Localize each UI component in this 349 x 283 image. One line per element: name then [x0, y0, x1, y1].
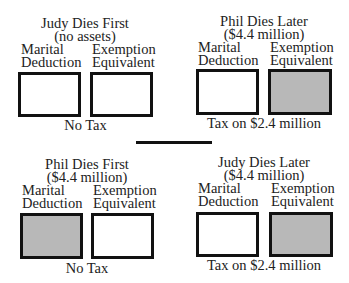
marital-deduction-box — [196, 69, 259, 115]
marital-label-line2: Deduction — [21, 56, 81, 69]
tax-result: No Tax — [18, 119, 153, 132]
exemption-label-line2: Equivalent — [93, 197, 156, 210]
tax-result: Tax on $2.4 million — [190, 117, 338, 130]
marital-label-line2: Deduction — [22, 197, 82, 210]
marital-deduction-box — [18, 72, 81, 117]
marital-label-line2: Deduction — [198, 54, 258, 67]
marital-label-line2: Deduction — [198, 195, 258, 208]
exemption-equivalent-box-shaded — [268, 69, 332, 115]
exemption-label-line2: Equivalent — [270, 54, 333, 67]
marital-deduction-box — [196, 212, 259, 257]
tax-result: Tax on $2.4 million — [190, 259, 338, 272]
exemption-equivalent-box — [91, 213, 154, 259]
marital-deduction-box-shaded — [20, 213, 83, 259]
exemption-equivalent-box-shaded — [269, 212, 333, 257]
tax-result: No Tax — [20, 262, 154, 275]
exemption-label-line2: Equivalent — [271, 195, 334, 208]
exemption-equivalent-box — [90, 72, 153, 117]
exemption-label-line2: Equivalent — [92, 56, 155, 69]
divider-line — [136, 141, 212, 144]
